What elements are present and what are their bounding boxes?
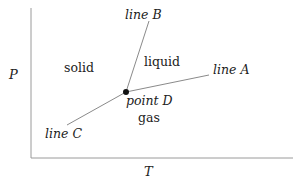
region-gas-label: gas	[138, 112, 160, 125]
line-b-label: line B	[125, 9, 162, 22]
line-a-label: line A	[213, 64, 249, 77]
line-c-label: line C	[45, 128, 82, 141]
region-liquid-label: liquid	[144, 56, 180, 69]
line-c	[67, 92, 126, 125]
line-a	[126, 75, 209, 92]
point-d-label: point D	[126, 95, 173, 108]
x-axis-label: T	[144, 165, 153, 178]
region-solid-label: solid	[64, 62, 94, 75]
y-axis-label: P	[9, 68, 18, 81]
